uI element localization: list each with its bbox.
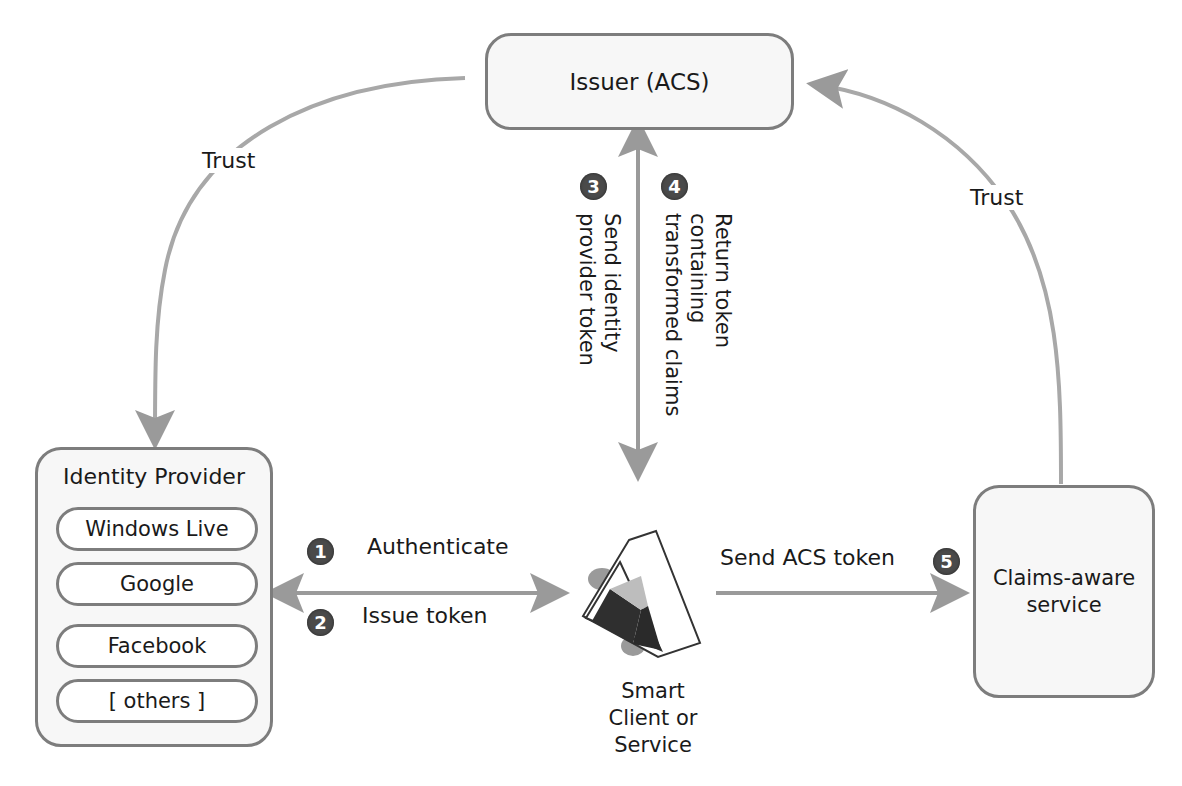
step-5-label: Send ACS token (720, 545, 895, 570)
identity-provider-title: Identity Provider (38, 464, 270, 489)
provider-label: [ others ] (109, 689, 206, 713)
smart-client-icon (583, 531, 700, 657)
provider-google[interactable]: Google (56, 562, 258, 606)
trust-label-right: Trust (970, 185, 1023, 210)
provider-label: Google (120, 572, 194, 596)
issuer-node[interactable]: Issuer (ACS) (485, 33, 794, 130)
trust-label-left: Trust (202, 148, 255, 173)
step-1-badge: 1 (307, 538, 334, 565)
step-4-label-line: containing (685, 213, 710, 416)
step-2-badge: 2 (307, 609, 334, 636)
issuer-label: Issuer (ACS) (569, 69, 709, 95)
trust-arrow-right (818, 85, 1061, 484)
provider-windows-live[interactable]: Windows Live (56, 507, 258, 551)
step-4-label-line: Return token (710, 213, 735, 416)
step-3-label-line: Send identity (599, 213, 624, 366)
provider-label: Windows Live (85, 517, 228, 541)
step-3-label-line: provider token (574, 213, 599, 366)
provider-label: Facebook (108, 634, 207, 658)
step-4-label-line: transformed claims (660, 213, 685, 416)
step-4-badge: 4 (661, 173, 688, 200)
client-label-line: Service (598, 732, 708, 759)
provider-facebook[interactable]: Facebook (56, 624, 258, 668)
client-label-line: Smart (598, 678, 708, 705)
step-1-label: Authenticate (367, 534, 509, 559)
smart-client-label: Smart Client or Service (598, 678, 708, 759)
identity-provider-node[interactable]: Identity Provider Windows Live Google Fa… (35, 447, 273, 747)
client-label-line: Client or (598, 705, 708, 732)
step-5-badge: 5 (933, 548, 960, 575)
service-label-line: Claims-aware (993, 565, 1135, 592)
step-3-badge: 3 (580, 173, 607, 200)
step-4-label: Return token containing transformed clai… (660, 213, 735, 416)
claims-aware-service-node[interactable]: Claims-aware service (973, 485, 1155, 698)
provider-others[interactable]: [ others ] (56, 679, 258, 723)
trust-arrow-left (155, 78, 465, 438)
service-label-line: service (993, 592, 1135, 619)
step-2-label: Issue token (362, 603, 487, 628)
step-3-label: Send identity provider token (574, 213, 624, 366)
